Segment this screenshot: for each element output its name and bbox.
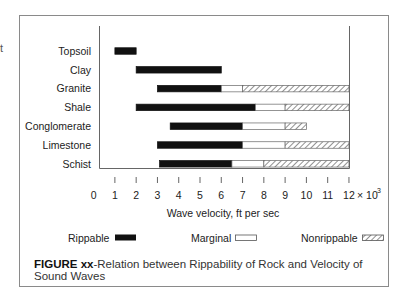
bar-segment-nonrippable [243,85,349,92]
x-tick-label: 9 [282,189,288,201]
x-tick-label: 2 [133,189,139,201]
legend-label-marginal: Marginal [191,232,231,244]
legend-swatch-rippable [115,235,136,241]
bar-segment-marginal [221,85,242,92]
category-label: Topsoil [58,45,91,57]
x-axis-title: Wave velocity, ft per sec [167,207,280,219]
bar-segment-marginal [243,142,286,149]
bar-segment-rippable [136,104,255,111]
x-tick-label: 1 [112,189,118,201]
legend-label-rippable: Rippable [68,232,110,244]
x-tick-label: 3 [155,189,161,201]
bar-segment-rippable [157,85,221,92]
bar-segment-nonrippable [264,161,349,168]
category-label: Granite [57,82,92,94]
x-tick-label: 11 [322,189,333,201]
x-tick-label: 8 [261,189,267,201]
x-multiplier-exponent: 3 [377,187,381,194]
bar-segment-marginal [243,123,286,130]
legend-swatch-nonrippable [363,235,384,241]
x-tick-label: 6 [218,189,224,201]
x-tick-label: 0 [91,189,97,201]
bar-segment-rippable [157,142,242,149]
plot-area: TopsoilClayGraniteShaleConglomerateLimes… [25,26,349,170]
x-tick-label: 5 [197,189,203,201]
x-tick-label: 4 [176,189,182,201]
category-label: Conglomerate [25,120,91,132]
bar-segment-nonrippable [285,104,349,111]
legend-label-nonrippable: Nonrippable [301,232,358,244]
legend: RippableMarginalNonrippable [68,232,384,244]
bar-segment-nonrippable [285,142,349,149]
bar-segment-marginal [255,104,285,111]
category-label: Shale [64,101,91,113]
category-label: Limestone [43,139,92,151]
figure-caption: FIGURE xx-Relation between Rippability o… [34,258,384,282]
category-label: Schist [62,158,91,170]
x-axis: 0123456789101112× 103Wave velocity, ft p… [91,177,381,219]
x-multiplier-label: × 10 [357,189,378,201]
x-tick-label: 12 [343,189,355,201]
figure-label: FIGURE xx [34,258,93,270]
bar-segment-rippable [170,123,242,130]
bar-segment-rippable [160,161,232,168]
bar-segment-rippable [136,67,221,74]
legend-swatch-marginal [236,235,257,241]
category-label: Clay [70,64,92,76]
bar-segment-rippable [115,48,136,55]
bar-segment-marginal [232,161,264,168]
x-tick-label: 10 [301,189,313,201]
bar-segment-nonrippable [285,123,306,130]
x-tick-label: 7 [240,189,246,201]
